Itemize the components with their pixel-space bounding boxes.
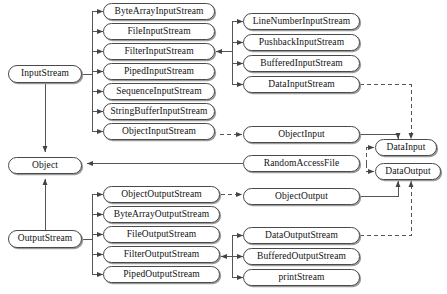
class-node-pipedoutputstream[interactable]: PipedOutputStream	[103, 266, 220, 283]
class-node-inputstream[interactable]: InputStream	[8, 65, 82, 83]
class-node-label: DataInput	[387, 142, 426, 152]
class-node-randomaccessfile[interactable]: RandomAccessFile	[243, 155, 360, 172]
class-node-label: printStream	[279, 272, 325, 282]
class-node-label: DataInputStream	[268, 79, 334, 89]
class-node-pushbackinputstream[interactable]: PushbackInputStream	[243, 34, 360, 51]
class-node-label: DataOutput	[385, 166, 430, 176]
class-node-label: InputStream	[21, 69, 69, 79]
edge-group-filterinputstream-children	[216, 22, 243, 85]
class-node-label: BufferedOutputStream	[257, 251, 346, 261]
class-node-label: ObjectOutputStream	[121, 189, 201, 199]
class-node-label: ByteArrayOutputStream	[114, 209, 210, 219]
class-node-pipedinputstream[interactable]: PipedInputStream	[103, 63, 215, 80]
class-node-filterinputstream[interactable]: FilterInputStream	[103, 43, 215, 60]
class-node-label: RandomAccessFile	[264, 158, 339, 168]
class-node-label: ByteArrayInputStream	[114, 6, 203, 16]
class-node-bytearrayoutputstream[interactable]: ByteArrayOutputStream	[103, 206, 220, 223]
class-node-label: PipedInputStream	[124, 66, 194, 76]
class-node-label: Object	[32, 160, 58, 170]
class-node-label: SequenceInputStream	[116, 86, 201, 96]
edge-datainputstream-datainput	[360, 85, 411, 140]
class-node-label: FilterInputStream	[124, 46, 193, 56]
class-node-dataoutputstream[interactable]: DataOutputStream	[243, 227, 360, 244]
class-node-sequenceinputstream[interactable]: SequenceInputStream	[103, 83, 215, 100]
class-node-label: OutputStream	[18, 234, 73, 244]
class-node-fileinputstream[interactable]: FileInputStream	[103, 23, 215, 40]
edge-group-outputstream-children	[82, 195, 103, 275]
class-node-linenumberinputstream[interactable]: LineNumberInputStream	[243, 13, 360, 30]
class-node-printstream[interactable]: printStream	[243, 269, 360, 286]
class-node-label: ObjectInput	[278, 129, 324, 139]
class-node-label: PushbackInputStream	[259, 37, 344, 47]
class-node-objectinputstream[interactable]: ObjectInputStream	[103, 123, 215, 140]
class-node-label: FilterOutputStream	[124, 249, 200, 259]
class-node-objectoutputstream[interactable]: ObjectOutputStream	[103, 186, 220, 203]
class-node-label: LineNumberInputStream	[253, 16, 351, 26]
edge-randomaccessfile-datainput	[366, 148, 374, 164]
class-node-stringbufferinputstream[interactable]: StringBufferInputStream	[103, 103, 215, 120]
edge-group-inputstream-children	[82, 12, 103, 132]
class-node-label: ObjectOutput	[275, 191, 328, 201]
edge-dataoutputstream-dataoutput	[360, 181, 411, 236]
class-node-bufferedoutputstream[interactable]: BufferedOutputStream	[243, 248, 360, 265]
edge-randomaccessfile-dataoutput	[366, 164, 374, 172]
class-node-label: StringBufferInputStream	[110, 106, 207, 116]
class-node-outputstream[interactable]: OutputStream	[8, 230, 82, 248]
class-node-label: DataOutputStream	[265, 230, 338, 240]
class-diagram-canvas: InputStreamByteArrayInputStreamFileInput…	[0, 0, 447, 294]
class-node-datainput[interactable]: DataInput	[375, 139, 437, 156]
class-node-label: ObjectInputStream	[122, 126, 196, 136]
class-node-bufferedinputstream[interactable]: BufferedInputStream	[243, 55, 360, 72]
class-node-objectoutput[interactable]: ObjectOutput	[243, 188, 360, 205]
class-node-label: BufferedInputStream	[260, 58, 342, 68]
edge-group-filteroutputstream-children	[221, 236, 243, 278]
class-node-label: FileOutputStream	[127, 229, 197, 239]
class-node-dataoutput[interactable]: DataOutput	[375, 163, 441, 180]
class-node-bytearrayinputstream[interactable]: ByteArrayInputStream	[103, 3, 215, 20]
class-node-label: PipedOutputStream	[123, 269, 200, 279]
class-node-datainputstream[interactable]: DataInputStream	[243, 76, 360, 93]
edge-objectoutput-dataoutput	[360, 181, 398, 197]
class-node-fileoutputstream[interactable]: FileOutputStream	[103, 226, 220, 243]
class-node-objectinput[interactable]: ObjectInput	[243, 126, 360, 143]
class-node-label: FileInputStream	[127, 26, 190, 36]
class-node-filteroutputstream[interactable]: FilterOutputStream	[103, 246, 220, 263]
class-node-object[interactable]: Object	[8, 157, 82, 174]
